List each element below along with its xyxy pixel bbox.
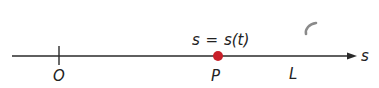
axis-arrow-icon (347, 53, 357, 60)
equation-lhs: s (192, 31, 200, 49)
point-label-p: P (211, 67, 221, 85)
line-label-l: L (289, 65, 297, 83)
curl-mark-icon (306, 23, 316, 34)
equation-rhs: s(t) (224, 31, 249, 49)
point-p-marker (213, 51, 223, 61)
axis-label-s: s (361, 47, 369, 65)
equation-equals: = (206, 31, 219, 49)
number-line-diagram: s O P L s = s(t) (0, 0, 379, 88)
equation-label: s = s(t) (192, 31, 249, 49)
origin-label: O (53, 67, 65, 85)
